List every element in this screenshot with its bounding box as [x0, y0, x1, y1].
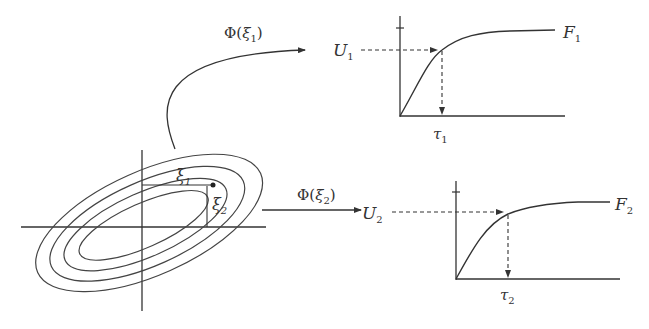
- arrow-phi-xi2: Φ(ξ2): [262, 186, 361, 210]
- f1-label: F1: [562, 22, 581, 44]
- tau1-label: τ1: [433, 125, 448, 145]
- ellipse-panel: ξ1 ξ2: [17, 126, 282, 320]
- u1-label: U1: [333, 40, 354, 62]
- u2-label: U2: [362, 203, 383, 225]
- phi-xi1-label: Φ(ξ1): [224, 24, 263, 44]
- diagram-canvas: ξ1 ξ2 Φ(ξ1) Φ(ξ2) F1 U1 τ1 F2 U2 τ2: [0, 0, 649, 329]
- contour-4: [17, 126, 282, 320]
- tau2-label: τ2: [500, 286, 515, 306]
- xi1-label: ξ1: [176, 166, 191, 187]
- cdf-panel-2: F2 U2 τ2: [362, 181, 633, 306]
- cdf1-curve: [400, 30, 555, 116]
- f2-label: F2: [614, 194, 633, 216]
- xi2-label: ξ2: [212, 195, 227, 216]
- sample-point: [211, 183, 216, 188]
- ellipse-contours: [17, 126, 282, 320]
- cdf-panel-1: F1 U1 τ1: [333, 16, 581, 145]
- arrow-phi-xi1: Φ(ξ1): [167, 24, 305, 149]
- phi-xi2-label: Φ(ξ2): [297, 186, 336, 206]
- cdf2-curve: [456, 202, 610, 279]
